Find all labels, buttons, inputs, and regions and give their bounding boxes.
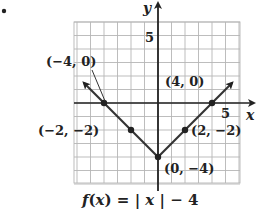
- bullet: [2, 9, 6, 13]
- point-label-2-neg2: (2, −2): [191, 123, 241, 138]
- point-label-0-neg4: (0, −4): [164, 161, 214, 176]
- x-axis-label: x: [245, 107, 255, 123]
- point-label-neg4-0: (−4, 0): [46, 54, 96, 69]
- graph: y x 5 5 (−4, 0) (4, 0) (−2, −2) (2, −2) …: [0, 0, 258, 217]
- point-label-neg2-neg2: (−2, −2): [38, 123, 99, 138]
- x-tick-label: 5: [221, 106, 230, 121]
- y-tick-label: 5: [145, 30, 154, 45]
- function-caption: f(x) = | x | − 4: [81, 191, 198, 209]
- y-axis-label: y: [142, 0, 152, 16]
- point-label-4-0: (4, 0): [165, 74, 204, 89]
